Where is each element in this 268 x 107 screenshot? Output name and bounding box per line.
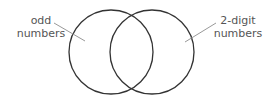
set-circle-odd xyxy=(69,10,153,94)
label-two-digit-numbers: 2-digit numbers xyxy=(212,14,264,40)
set-circle-two-digit xyxy=(110,10,194,94)
label-odd-numbers: odd numbers xyxy=(16,14,66,40)
